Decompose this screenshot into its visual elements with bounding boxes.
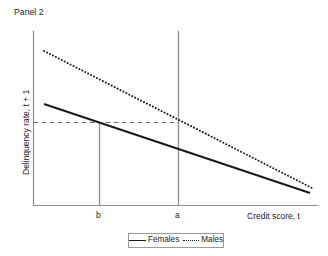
legend-swatch-dotted-icon	[183, 240, 199, 241]
legend-item-females: Females	[129, 236, 179, 244]
page-title: Panel 2	[14, 8, 43, 17]
chart-figure: Panel 2 Delinquency rate, t + 1 Credit s…	[0, 0, 328, 256]
legend-label-females: Females	[148, 236, 179, 244]
chart-legend: Females Males	[128, 233, 224, 248]
x-tick-label-b: b	[96, 211, 101, 220]
legend-swatch-solid-icon	[129, 240, 146, 241]
x-axis-label: Credit score, t	[247, 212, 300, 221]
legend-label-males: Males	[201, 236, 223, 244]
legend-item-males: Males	[183, 236, 223, 244]
y-axis-label: Delinquency rate, t + 1	[21, 90, 31, 175]
series-line-females	[44, 104, 310, 193]
x-tick-label-a: a	[175, 211, 180, 220]
